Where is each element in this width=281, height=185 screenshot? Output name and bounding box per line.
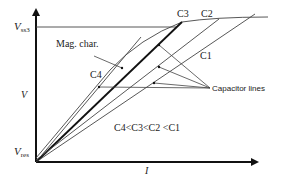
- c2-label: C2: [201, 8, 213, 19]
- capacitance-relation: C4<C3<C2 <C1: [114, 122, 180, 133]
- capacitor-leader-2: [159, 67, 210, 88]
- y-tick-vres: Vres: [14, 145, 29, 159]
- y-tick-vss3: Vss3: [14, 20, 30, 34]
- c1-label: C1: [200, 50, 212, 61]
- c3-label: C3: [177, 8, 189, 19]
- capacitor-lines-label: Capacitor lines: [212, 84, 265, 93]
- capacitor-magnetization-diagram: Vss3 V Vres I Mag. char. C4 C3 C2 C1 Cap…: [0, 0, 281, 185]
- mag-char-label: Mag. char.: [56, 38, 99, 49]
- y-axis-label: V: [21, 89, 29, 100]
- capacitor-line-c4: [36, 37, 141, 162]
- c4-label: C4: [90, 69, 102, 80]
- x-axis-label: I: [144, 165, 149, 176]
- capacitor-leader-4: [99, 87, 210, 88]
